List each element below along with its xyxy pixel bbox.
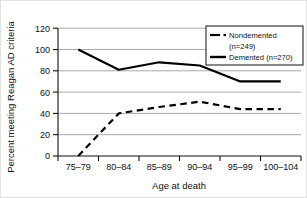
y-tick-label: 40 — [40, 109, 50, 119]
legend-label-nondemented: Nondemented — [229, 31, 277, 40]
x-axis-title: Age at death — [152, 180, 206, 191]
line-chart: 120 100 80 60 40 20 0 75–79 80–84 85–89 … — [1, 1, 307, 198]
x-tick-label: 75–79 — [66, 162, 91, 172]
legend-label-nondemented-count: (n=249) — [229, 42, 256, 51]
y-tick-label: 120 — [35, 24, 50, 34]
y-axis-title: Percent meeting Reagan AD criteria — [5, 21, 16, 173]
x-tick-label: 100–104 — [263, 162, 298, 172]
y-tick-labels: 120 100 80 60 40 20 0 — [35, 24, 50, 162]
y-axis-ticks — [53, 28, 58, 156]
x-tick-label: 95–99 — [228, 162, 253, 172]
y-tick-label: 60 — [40, 88, 50, 98]
y-tick-label: 100 — [35, 45, 50, 55]
x-tick-label: 90–94 — [187, 162, 212, 172]
x-tick-labels: 75–79 80–84 85–89 90–94 95–99 100–104 — [66, 162, 299, 172]
legend-label-demented: Demented (n=270) — [229, 53, 293, 62]
x-tick-label: 80–84 — [106, 162, 131, 172]
series-line-nondemented — [78, 102, 281, 156]
y-tick-label: 20 — [40, 130, 50, 140]
y-tick-label: 80 — [40, 66, 50, 76]
chart-figure: 120 100 80 60 40 20 0 75–79 80–84 85–89 … — [0, 0, 307, 198]
x-tick-label: 85–89 — [147, 162, 172, 172]
y-tick-label: 0 — [45, 151, 50, 161]
chart-legend: Nondemented (n=249) Demented (n=270) — [206, 26, 303, 65]
x-axis-ticks — [58, 156, 301, 161]
